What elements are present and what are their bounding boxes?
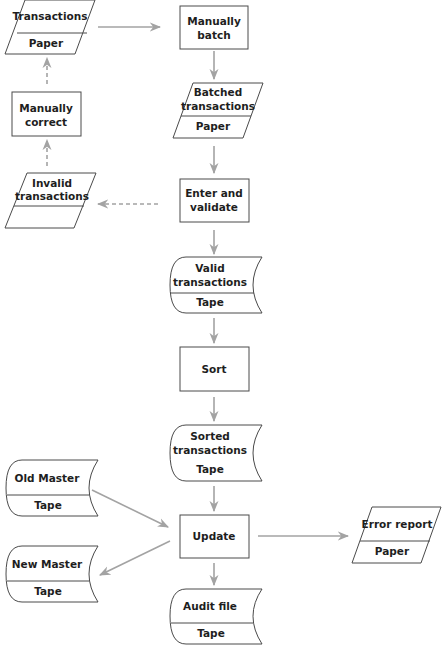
node-label: Sort xyxy=(202,363,227,375)
media-label: Paper xyxy=(29,37,64,49)
media-label: Tape xyxy=(34,585,62,597)
node-sorted-transactions: Sorted transactions Tape xyxy=(170,425,262,481)
node-valid-transactions: Valid transactions Tape xyxy=(170,257,262,313)
process-box xyxy=(180,6,248,49)
node-manually-correct: Manually correct xyxy=(12,92,81,136)
node-manually-batch: Manually batch xyxy=(180,6,248,49)
node-label: Enter and xyxy=(185,187,243,199)
node-batched-transactions: Batched transactions Paper xyxy=(173,83,263,138)
node-label: Update xyxy=(193,530,236,542)
node-label: Sorted xyxy=(190,430,230,442)
node-label: transactions xyxy=(173,444,247,456)
node-label: Error report xyxy=(362,518,433,530)
arrow-oldmaster-to-update xyxy=(92,490,168,527)
media-label: Paper xyxy=(375,545,410,557)
media-label: Tape xyxy=(197,627,225,639)
node-audit-file: Audit file Tape xyxy=(170,589,262,644)
flowchart-canvas: Transactions Paper Manually batch Batche… xyxy=(0,0,446,660)
node-label: validate xyxy=(190,201,238,213)
node-enter-and-validate: Enter and validate xyxy=(180,179,249,222)
node-label: correct xyxy=(25,116,67,128)
node-error-report: Error report Paper xyxy=(352,507,441,563)
process-box xyxy=(12,92,81,136)
node-old-master: Old Master Tape xyxy=(6,460,98,516)
node-label: batch xyxy=(197,29,230,41)
node-label: Valid xyxy=(195,262,224,274)
media-label: Tape xyxy=(34,499,62,511)
arrow-update-to-newmaster xyxy=(100,541,170,575)
node-sort: Sort xyxy=(180,347,249,391)
node-label: transactions xyxy=(15,190,89,202)
node-new-master: New Master Tape xyxy=(6,546,98,602)
node-label: Manually xyxy=(19,102,73,114)
media-label: Paper xyxy=(196,120,231,132)
node-invalid-transactions: Invalid transactions xyxy=(5,173,96,228)
node-label: New Master xyxy=(12,558,83,570)
node-label: Manually xyxy=(187,15,241,27)
node-transactions: Transactions Paper xyxy=(5,0,95,54)
node-label: Batched xyxy=(194,86,242,98)
media-label: Tape xyxy=(196,296,224,308)
node-label: Transactions xyxy=(13,10,88,22)
node-label: Audit file xyxy=(183,600,237,612)
node-label: transactions xyxy=(173,276,247,288)
node-update: Update xyxy=(180,515,249,558)
node-label: Old Master xyxy=(15,472,81,484)
node-label: transactions xyxy=(181,100,255,112)
media-label: Tape xyxy=(196,463,224,475)
node-label: Invalid xyxy=(32,177,72,189)
